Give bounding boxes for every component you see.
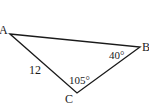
vertex-b-label: B — [142, 40, 149, 54]
triangle-diagram: A B C 12 40° 105° — [0, 0, 149, 105]
side-ac-length-label: 12 — [29, 63, 41, 77]
vertex-a-label: A — [0, 23, 8, 37]
angle-b-label: 40° — [109, 49, 124, 61]
vertex-c-label: C — [65, 92, 73, 105]
angle-c-label: 105° — [69, 74, 90, 86]
